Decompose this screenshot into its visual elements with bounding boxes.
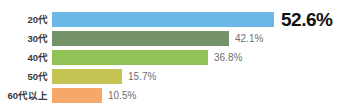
bar-track: 42.1% [52,29,357,48]
bar-segment [52,12,274,27]
bar-segment [52,50,208,65]
bar-row: 40代 36.8% [0,48,357,67]
category-label: 50代 [0,72,52,82]
bar-segment [52,31,229,46]
bar-track: 15.7% [52,67,357,86]
bar-track: 36.8% [52,48,357,67]
bar-row: 50代 15.7% [0,67,357,86]
value-label: 15.7% [128,72,156,82]
value-label: 42.1% [235,34,263,44]
value-label: 36.8% [214,53,242,63]
bar-rows-container: 20代 52.6% 30代 42.1% 40代 36.8% 50代 [0,10,357,105]
bar-row: 30代 42.1% [0,29,357,48]
category-label: 20代 [0,15,52,25]
category-label: 30代 [0,34,52,44]
bar-segment [52,88,102,103]
bar-segment [52,69,122,84]
value-label: 52.6% [281,10,332,29]
category-label: 40代 [0,53,52,63]
bar-track: 10.5% [52,86,357,105]
bar-row: 20代 52.6% [0,10,357,29]
value-label: 10.5% [108,91,136,101]
horizontal-bar-chart: 20代 52.6% 30代 42.1% 40代 36.8% 50代 [0,0,357,109]
category-label: 60代以上 [0,91,52,101]
bar-track: 52.6% [52,10,357,29]
bar-row: 60代以上 10.5% [0,86,357,105]
